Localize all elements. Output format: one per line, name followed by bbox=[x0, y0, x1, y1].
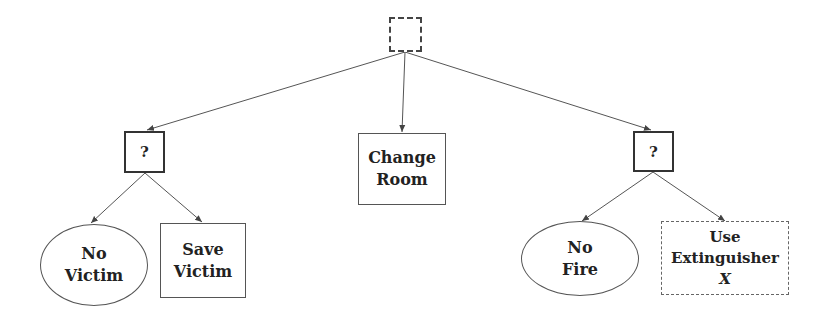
right-fallback-node[interactable]: ? bbox=[633, 131, 674, 172]
change-room-line2: Room bbox=[376, 169, 428, 191]
change-room-line1: Change bbox=[368, 147, 436, 169]
edge-root-to-right-fallback bbox=[405, 52, 651, 130]
use-extinguisher-line1: Use bbox=[709, 227, 740, 248]
edge-root-to-change-room bbox=[402, 52, 405, 132]
fallback-question-mark: ? bbox=[649, 142, 658, 162]
edge-left-fallback-to-save-victim bbox=[145, 173, 202, 222]
no-victim-line2: Victim bbox=[65, 265, 123, 287]
change-room-action-node[interactable]: Change Room bbox=[358, 133, 446, 205]
use-extinguisher-line2: Extinguisher bbox=[671, 248, 779, 269]
use-extinguisher-action-node[interactable]: Use Extinguisher X bbox=[661, 221, 789, 295]
left-fallback-node[interactable]: ? bbox=[124, 131, 165, 173]
edge-right-fallback-to-no-fire bbox=[582, 172, 653, 221]
save-victim-action-node[interactable]: Save Victim bbox=[160, 223, 246, 298]
no-victim-line1: No bbox=[81, 243, 106, 265]
no-fire-line2: Fire bbox=[562, 259, 598, 281]
use-extinguisher-variable: X bbox=[719, 269, 731, 290]
no-fire-line1: No bbox=[567, 237, 592, 259]
no-victim-condition-node[interactable]: No Victim bbox=[40, 224, 148, 306]
save-victim-line2: Victim bbox=[174, 261, 232, 283]
save-victim-line1: Save bbox=[182, 239, 223, 261]
edge-left-fallback-to-no-victim bbox=[91, 173, 145, 223]
root-sequence-node[interactable] bbox=[389, 17, 422, 52]
fallback-question-mark: ? bbox=[140, 142, 149, 162]
no-fire-condition-node[interactable]: No Fire bbox=[521, 221, 639, 296]
edge-right-fallback-to-use-extinguisher bbox=[653, 172, 725, 221]
edge-root-to-left-fallback bbox=[147, 52, 405, 130]
